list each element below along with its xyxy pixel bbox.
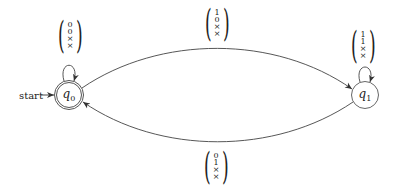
- label-edge-q0-q1: ( 1 0 × × ): [201, 4, 233, 42]
- loop-q1: [359, 67, 371, 82]
- label-loop-q0: ( 0 0 × × ): [54, 16, 86, 54]
- entry: ×: [360, 52, 367, 59]
- state-name: q: [359, 87, 367, 101]
- right-paren: ): [368, 26, 375, 64]
- entry: ×: [214, 30, 221, 37]
- right-paren: ): [75, 16, 82, 54]
- loop-q0: [63, 65, 75, 81]
- entry: ×: [213, 173, 220, 180]
- edge-q1-q0: [83, 102, 353, 142]
- left-paren: (: [204, 147, 211, 185]
- start-label: start: [19, 90, 43, 101]
- edge-q0-q1: [82, 48, 352, 89]
- right-paren: ): [222, 4, 229, 42]
- state-subscript: 1: [366, 94, 371, 103]
- state-name: q: [63, 87, 71, 101]
- left-paren: (: [351, 26, 358, 64]
- entry: ×: [67, 42, 74, 49]
- right-paren: ): [221, 147, 228, 185]
- state-subscript: 0: [70, 94, 75, 103]
- left-paren: (: [205, 4, 212, 42]
- left-paren: (: [58, 16, 65, 54]
- label-loop-q1: ( 1 1 × × ): [347, 26, 379, 64]
- state-q0-label: q0: [63, 87, 76, 103]
- state-q1-label: q1: [359, 87, 372, 103]
- label-edge-q1-q0: ( 0 1 × × ): [200, 147, 232, 185]
